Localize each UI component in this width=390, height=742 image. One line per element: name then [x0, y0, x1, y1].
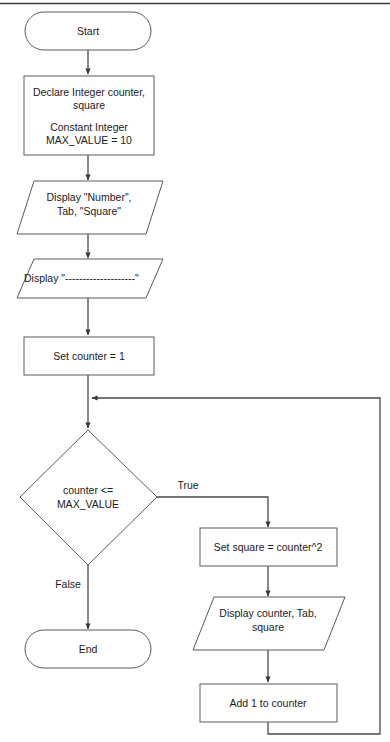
- declare-line-2: square: [73, 99, 105, 111]
- node-set-square[interactable]: Set square = counter^2: [200, 528, 337, 566]
- node-display-row[interactable]: Display counter, Tab, square: [193, 597, 345, 650]
- display-header-line-2: Tab, "Square": [57, 205, 121, 217]
- connector-true-branch: [157, 497, 268, 527]
- node-end[interactable]: End: [25, 630, 151, 668]
- set-counter-label: Set counter = 1: [53, 350, 125, 362]
- decision-line-2: MAX_VALUE: [57, 498, 119, 510]
- flowchart-canvas: Start Declare Integer counter, square Co…: [0, 0, 390, 742]
- start-label: Start: [77, 25, 99, 37]
- node-add-one[interactable]: Add 1 to counter: [200, 684, 337, 722]
- edge-label-true: True: [177, 479, 198, 491]
- display-header-line-1: Display "Number",: [46, 191, 131, 203]
- display-row-line-2: square: [252, 621, 284, 633]
- edge-label-false: False: [55, 578, 81, 590]
- node-declare[interactable]: Declare Integer counter, square Constant…: [24, 76, 154, 155]
- declare-line-3: Constant Integer: [50, 121, 128, 133]
- node-decision[interactable]: counter <= MAX_VALUE: [20, 430, 157, 565]
- node-start[interactable]: Start: [25, 12, 151, 50]
- flowchart-svg: Start Declare Integer counter, square Co…: [0, 0, 390, 742]
- declare-line-4: MAX_VALUE = 10: [46, 134, 132, 146]
- display-divider-line-1: Display "--------------------": [24, 272, 139, 284]
- declare-line-1: Declare Integer counter,: [33, 86, 145, 98]
- node-set-counter[interactable]: Set counter = 1: [24, 337, 154, 375]
- node-display-header[interactable]: Display "Number", Tab, "Square": [17, 181, 163, 234]
- decision-line-1: counter <=: [63, 484, 113, 496]
- end-label: End: [79, 643, 98, 655]
- node-display-divider[interactable]: Display "--------------------": [17, 259, 163, 298]
- add-one-label: Add 1 to counter: [229, 697, 307, 709]
- display-row-line-1: Display counter, Tab,: [219, 607, 316, 619]
- set-square-label: Set square = counter^2: [214, 541, 323, 553]
